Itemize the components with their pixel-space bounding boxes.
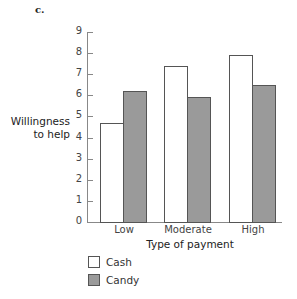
y-tick-label: 8	[72, 46, 82, 57]
bar-high-candy	[252, 85, 276, 223]
bar-low-cash	[100, 123, 124, 223]
x-tick-label: High	[223, 224, 283, 235]
y-axis	[87, 32, 88, 222]
y-tick-label: 7	[72, 67, 82, 78]
y-tick-mark	[88, 32, 93, 33]
y-axis-label-line2: to help	[0, 128, 70, 141]
bar-moderate-candy	[187, 97, 211, 223]
y-tick-mark	[88, 201, 93, 202]
bar-low-candy	[123, 91, 147, 223]
y-tick-label: 1	[72, 194, 82, 205]
y-tick-label: 2	[72, 173, 82, 184]
legend-label: Cash	[106, 256, 132, 268]
y-tick-label: 9	[72, 25, 82, 36]
x-tick-label: Moderate	[158, 224, 218, 235]
legend-swatch-candy	[88, 274, 100, 286]
x-axis-label: Type of payment	[120, 238, 260, 250]
y-tick-mark	[88, 95, 93, 96]
legend-item-cash: Cash	[88, 255, 132, 269]
y-tick-label: 6	[72, 88, 82, 99]
y-tick-label: 0	[72, 215, 82, 226]
y-tick-label: 5	[72, 109, 82, 120]
y-tick-mark	[88, 159, 93, 160]
y-tick-mark	[88, 53, 93, 54]
y-tick-mark	[88, 222, 93, 223]
x-tick-label: Low	[94, 224, 154, 235]
legend-label: Candy	[106, 274, 139, 286]
y-tick-mark	[88, 74, 93, 75]
y-tick-mark	[88, 116, 93, 117]
legend-item-candy: Candy	[88, 273, 139, 287]
y-tick-label: 4	[72, 131, 82, 142]
bar-high-cash	[229, 55, 253, 223]
legend-swatch-cash	[88, 256, 100, 268]
panel-label: c.	[35, 4, 45, 15]
y-tick-mark	[88, 180, 93, 181]
bar-moderate-cash	[164, 66, 188, 223]
y-tick-mark	[88, 138, 93, 139]
y-axis-label-line1: Willingness	[0, 115, 70, 128]
y-tick-label: 3	[72, 152, 82, 163]
